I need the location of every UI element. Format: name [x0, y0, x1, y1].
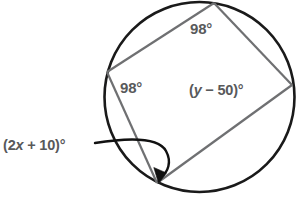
angle-label-bottom: (2x + 10)°: [3, 137, 66, 153]
angle-label-left: 98°: [120, 79, 142, 96]
angle-label-top: 98°: [190, 20, 212, 37]
geometry-figure: 98° 98° (y − 50)° (2x + 10)°: [0, 0, 307, 200]
angle-label-right: (y − 50)°: [189, 82, 244, 98]
